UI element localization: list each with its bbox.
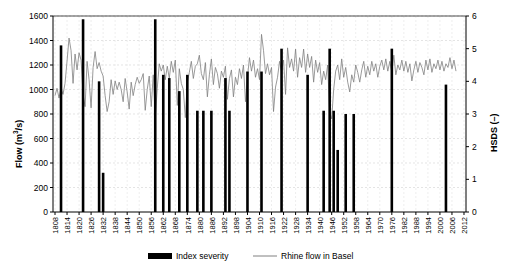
x-tick-label: 1922 (280, 217, 289, 234)
y2-tick-label: 0 (472, 207, 477, 217)
x-tick-label: 1916 (268, 217, 277, 234)
x-tick-label: 2012 (460, 217, 469, 234)
x-tick-label: 1952 (340, 217, 349, 234)
index-severity-bar (391, 49, 394, 212)
index-severity-bar (228, 111, 231, 212)
chart-figure: Flow (m3/s) HSDS (–) 0200400600800100012… (0, 0, 505, 277)
x-tick-label: 1808 (51, 217, 60, 234)
x-tick-label: 1838 (111, 217, 120, 234)
x-tick-label: 1958 (352, 217, 361, 234)
x-tick-label: 1880 (196, 217, 205, 234)
legend-label-index-severity: Index severity (176, 251, 229, 261)
x-tick-label: 1826 (87, 217, 96, 234)
y-tick-label: 0 (43, 207, 48, 217)
y2-tick-label: 1 (472, 174, 477, 184)
x-tick-label: 1850 (135, 217, 144, 234)
x-tick-label: 1934 (304, 217, 313, 234)
x-tick-label: 1964 (364, 217, 373, 234)
y2-tick-label: 5 (472, 44, 477, 54)
x-tick-label: 1976 (388, 217, 397, 234)
x-tick-label: 1940 (316, 217, 325, 234)
index-severity-bar (154, 19, 157, 212)
index-severity-bar (168, 78, 171, 212)
x-tick-label: 1988 (412, 217, 421, 234)
x-tick-label: 1982 (400, 217, 409, 234)
index-severity-bar (82, 19, 85, 212)
x-tick-label: 2006 (448, 217, 457, 234)
y-tick-label: 1400 (29, 36, 48, 46)
index-severity-bar (260, 72, 263, 212)
x-tick-label: 1904 (244, 217, 253, 234)
x-tick-label: 1892 (220, 217, 229, 234)
index-severity-bar (322, 111, 325, 212)
index-severity-bar (336, 150, 339, 212)
plot-area: 0200400600800100012001400160001234561808… (0, 0, 505, 277)
y2-tick-label: 4 (472, 76, 477, 86)
x-tick-label: 2000 (436, 217, 445, 234)
x-tick-label: 1886 (208, 217, 217, 234)
index-severity-bar (352, 114, 355, 212)
x-tick-label: 1910 (256, 217, 265, 234)
y2-tick-label: 2 (472, 142, 477, 152)
y-tick-label: 1000 (29, 85, 48, 95)
x-tick-label: 1856 (147, 217, 156, 234)
y-tick-label: 200 (34, 183, 48, 193)
y-tick-label: 400 (34, 158, 48, 168)
legend-label-rhine-flow: Rhine flow in Basel (281, 251, 353, 261)
index-severity-bar (60, 45, 63, 212)
index-severity-bar (202, 111, 205, 212)
index-severity-bar (445, 85, 448, 212)
index-severity-bar (178, 91, 181, 212)
index-severity-bar (102, 173, 105, 212)
x-tick-label: 1898 (232, 217, 241, 234)
index-severity-bar (344, 114, 347, 212)
index-severity-bar (306, 75, 309, 212)
x-tick-label: 1820 (75, 217, 84, 234)
index-severity-bar (224, 78, 227, 212)
y2-tick-label: 6 (472, 11, 477, 21)
index-severity-bar (186, 75, 189, 212)
x-tick-label: 1868 (171, 217, 180, 234)
index-severity-bar (328, 49, 331, 212)
index-severity-bar (98, 81, 101, 212)
index-severity-bar (196, 111, 199, 212)
x-tick-label: 1814 (63, 217, 72, 234)
y2-tick-label: 3 (472, 109, 477, 119)
x-tick-label: 1994 (424, 217, 433, 234)
x-tick-label: 1844 (123, 217, 132, 234)
x-tick-label: 1928 (292, 217, 301, 234)
index-severity-bar (280, 49, 283, 212)
legend-swatch-index-severity (148, 253, 172, 259)
index-severity-bar (332, 111, 335, 212)
index-severity-bar (210, 111, 213, 212)
index-severity-bar (162, 75, 165, 212)
y-tick-label: 1600 (29, 11, 48, 21)
x-tick-label: 1832 (99, 217, 108, 234)
y-tick-label: 1200 (29, 60, 48, 70)
x-tick-label: 1946 (328, 217, 337, 234)
y-tick-label: 600 (34, 134, 48, 144)
x-tick-label: 1874 (184, 217, 193, 234)
x-tick-label: 1970 (376, 217, 385, 234)
index-severity-bar (246, 72, 249, 212)
x-tick-label: 1862 (159, 217, 168, 234)
y-tick-label: 800 (34, 109, 48, 119)
